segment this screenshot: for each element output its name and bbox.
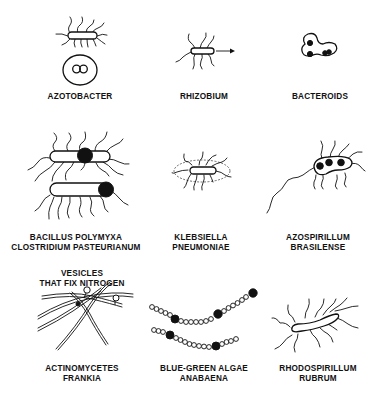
label-line: FRANKIA xyxy=(45,374,119,384)
label-rhizobium: RHIZOBIUM xyxy=(180,92,228,102)
label-line: PNEUMONIAE xyxy=(172,243,230,253)
label-line: BLUE-GREEN ALGAE xyxy=(160,364,248,374)
azotobacter-drawing xyxy=(56,17,107,85)
annotation-line: VESICLES xyxy=(39,269,124,279)
diagram-drawings xyxy=(0,0,384,402)
label-line: BACILLUS POLYMYXA xyxy=(11,233,140,243)
bacteroids-drawing xyxy=(302,34,337,57)
label-actinomycetes: ACTINOMYCETES FRANKIA xyxy=(45,364,119,384)
rhodospirillum-drawing xyxy=(272,298,358,352)
label-line: ACTINOMYCETES xyxy=(45,364,119,374)
label-bacillus: BACILLUS POLYMYXA CLOSTRIDIUM PASTEURIAN… xyxy=(11,233,140,253)
bacillus-drawing xyxy=(28,132,129,219)
label-line: BRASILENSE xyxy=(286,243,350,253)
label-line: RHIZOBIUM xyxy=(180,92,228,102)
label-line: RHODOSPIRILLUM xyxy=(279,364,356,374)
label-azotobacter: AZOTOBACTER xyxy=(48,92,113,102)
label-line: RUBRUM xyxy=(279,374,356,384)
azospirillum-drawing xyxy=(267,141,365,213)
annotation-vesicles: VESICLES THAT FIX NITROGEN xyxy=(39,269,124,289)
label-bacteroids: BACTEROIDS xyxy=(292,92,348,102)
label-azospirillum: AZOSPIRILLUM BRASILENSE xyxy=(286,233,350,253)
label-rhodospirillum: RHODOSPIRILLUM RUBRUM xyxy=(279,364,356,384)
label-line: AZOTOBACTER xyxy=(48,92,113,102)
label-line: AZOSPIRILLUM xyxy=(286,233,350,243)
anabaena-drawing xyxy=(150,289,258,350)
actinomycetes-drawing xyxy=(38,282,133,350)
annotation-line: THAT FIX NITROGEN xyxy=(39,279,124,289)
nitrogen-fixers-diagram: AZOTOBACTER RHIZOBIUM BACTEROIDS BACILLU… xyxy=(0,0,384,402)
label-line: ANABAENA xyxy=(160,374,248,384)
label-blue-green-algae: BLUE-GREEN ALGAE ANABAENA xyxy=(160,364,248,384)
label-line: BACTEROIDS xyxy=(292,92,348,102)
klebsiella-drawing xyxy=(172,152,231,190)
label-klebsiella: KLEBSIELLA PNEUMONIAE xyxy=(172,233,230,253)
rhizobium-drawing xyxy=(176,33,235,69)
label-line: KLEBSIELLA xyxy=(172,233,230,243)
label-line: CLOSTRIDIUM PASTEURIANUM xyxy=(11,243,140,253)
